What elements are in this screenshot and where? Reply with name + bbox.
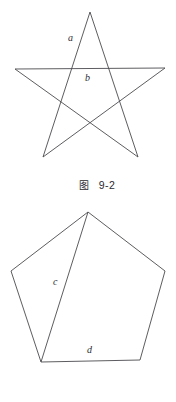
star-outline bbox=[15, 12, 165, 157]
pentagon-label-c: c bbox=[53, 276, 58, 287]
caption-number: 9-2 bbox=[99, 179, 116, 191]
figure-page: a b 图9-2 c d 图9-3 bbox=[0, 0, 176, 402]
pentagon-label-d: d bbox=[87, 344, 93, 355]
star-label-b: b bbox=[85, 72, 90, 83]
figure-9-3: c d 图9-3 bbox=[0, 200, 176, 402]
pentagon-diagonal bbox=[41, 212, 88, 362]
star-label-a: a bbox=[68, 32, 73, 43]
figure-9-2: a b 图9-2 bbox=[0, 0, 176, 200]
caption-figure-9-2: 图9-2 bbox=[0, 166, 176, 203]
caption-tag: 图 bbox=[79, 180, 90, 191]
star-diagram: a b bbox=[0, 0, 176, 170]
pentagon-diagram: c d bbox=[0, 200, 176, 372]
pentagon-outline bbox=[11, 212, 165, 362]
